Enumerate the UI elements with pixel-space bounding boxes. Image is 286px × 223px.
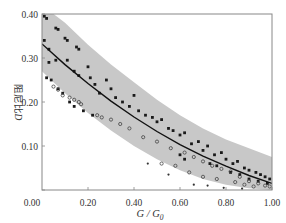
data-point xyxy=(197,140,200,143)
x-tick-label: 0.80 xyxy=(218,198,235,208)
data-point xyxy=(259,173,262,176)
data-point xyxy=(48,61,51,64)
svg-text:阻尼比D: 阻尼比D xyxy=(13,84,24,121)
y-tick-label: 0.30 xyxy=(21,54,38,64)
data-point xyxy=(268,178,271,181)
data-point xyxy=(160,118,163,121)
data-point xyxy=(241,188,243,190)
y-tick-label: 0.10 xyxy=(21,142,38,152)
data-point xyxy=(206,145,209,148)
data-point xyxy=(202,149,205,152)
x-tick-label: 0.60 xyxy=(172,198,189,208)
data-point xyxy=(183,158,186,161)
data-point xyxy=(54,59,57,62)
data-point xyxy=(133,94,136,97)
data-point xyxy=(167,127,170,130)
data-point xyxy=(128,105,131,108)
data-point xyxy=(45,76,48,79)
data-point xyxy=(223,187,225,189)
x-tick-label: 0.40 xyxy=(126,198,143,208)
y-axis-label-var: D xyxy=(13,113,23,121)
x-tick-label: 0.20 xyxy=(80,198,97,208)
data-point xyxy=(193,184,195,186)
data-point xyxy=(183,131,186,134)
data-point xyxy=(220,151,223,154)
x-axis-label: G / G0 xyxy=(136,208,163,222)
data-point xyxy=(167,174,169,176)
data-point xyxy=(264,175,267,178)
data-point xyxy=(190,142,193,145)
data-point xyxy=(87,65,90,68)
x-axis-label-sub: 0 xyxy=(160,213,164,222)
y-axis-label: 阻尼比D xyxy=(13,84,24,121)
data-point xyxy=(144,114,147,117)
data-point xyxy=(66,59,69,62)
data-point xyxy=(172,129,175,132)
data-point xyxy=(213,153,216,156)
data-point xyxy=(243,167,246,170)
data-point xyxy=(179,153,182,156)
data-point xyxy=(179,134,182,137)
data-point xyxy=(110,87,113,90)
x-tick-label: 1.00 xyxy=(264,198,281,208)
data-point xyxy=(73,105,76,108)
y-axis-label-text: 阻尼比 xyxy=(13,84,24,114)
data-point xyxy=(50,79,53,82)
svg-text:G / G0: G / G0 xyxy=(136,208,163,222)
x-axis-zero-label: 0.00 xyxy=(24,198,41,208)
x-axis-label-main: G / G xyxy=(136,208,160,219)
data-point xyxy=(68,101,71,104)
data-point xyxy=(121,101,124,104)
data-point xyxy=(114,96,117,99)
data-point xyxy=(43,39,46,42)
data-point xyxy=(147,163,149,165)
data-point xyxy=(137,109,140,112)
data-point xyxy=(89,76,92,79)
data-point xyxy=(156,120,159,123)
data-point xyxy=(225,158,228,161)
data-point xyxy=(232,162,235,165)
damping-ratio-chart: 0.200.400.600.801.00 0.100.200.300.40 0.… xyxy=(0,0,286,223)
data-point xyxy=(151,116,154,119)
data-point xyxy=(207,185,209,187)
data-point xyxy=(105,79,108,82)
data-point xyxy=(77,48,80,51)
data-point xyxy=(82,109,85,112)
data-point xyxy=(236,160,239,163)
data-point xyxy=(248,169,251,172)
data-point xyxy=(215,164,218,167)
data-point xyxy=(66,39,69,42)
data-point xyxy=(255,171,258,174)
y-tick-label: 0.40 xyxy=(21,10,38,20)
data-point xyxy=(57,28,60,31)
data-point xyxy=(94,83,97,86)
data-point xyxy=(45,17,48,20)
data-point xyxy=(91,114,94,117)
